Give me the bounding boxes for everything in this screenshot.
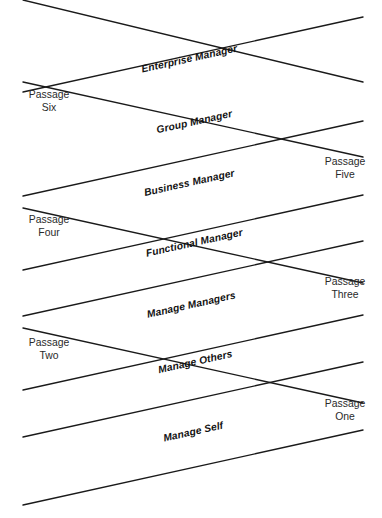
passage-five-label: Passage Five — [308, 155, 382, 182]
manage-self-label: Manage Self — [162, 419, 225, 443]
manage-self-line — [23, 430, 363, 505]
descender-upper-line — [23, 0, 363, 82]
passage-three-label: Passage Three — [308, 275, 382, 302]
group-manager-label: Group Manager — [155, 108, 234, 136]
business-manager-label: Business Manager — [143, 167, 236, 198]
passage-one-label: Passage One — [308, 397, 382, 424]
diagram-canvas: Enterprise ManagerGroup ManagerBusiness … — [0, 0, 382, 518]
enterprise-manager-label: Enterprise Manager — [140, 42, 239, 74]
role-labels-group: Enterprise ManagerGroup ManagerBusiness … — [140, 42, 244, 443]
leadership-pipeline-diagram: Enterprise ManagerGroup ManagerBusiness … — [0, 0, 382, 518]
manage-managers-label: Manage Managers — [146, 289, 237, 319]
passage-four-label: Passage Four — [12, 213, 86, 240]
passage-six-label: Passage Six — [12, 88, 86, 115]
passage-two-label: Passage Two — [12, 336, 86, 363]
